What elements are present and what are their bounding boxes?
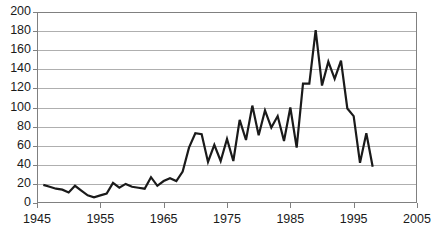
x-axis-tick-label: 1955 xyxy=(77,212,123,226)
y-axis-tick-label: 40 xyxy=(1,157,31,171)
x-axis-ticks xyxy=(33,13,418,209)
x-axis-tick-label: 1975 xyxy=(204,212,250,226)
y-axis-tick-label: 120 xyxy=(1,80,31,94)
y-axis-tick-label: 80 xyxy=(1,119,31,133)
y-axis-tick-label: 0 xyxy=(1,195,31,209)
y-axis-tick-label: 160 xyxy=(1,42,31,56)
x-axis-tick-label: 2005 xyxy=(394,212,438,226)
plot-border xyxy=(38,13,417,203)
x-axis-tick-label: 1985 xyxy=(267,212,313,226)
line-chart: 020406080100120140160180200 194519551965… xyxy=(0,0,438,243)
y-axis-tick-label: 140 xyxy=(1,61,31,75)
data-series-line xyxy=(43,30,372,197)
y-axis-tick-label: 180 xyxy=(1,23,31,37)
x-axis-tick-label: 1965 xyxy=(141,212,187,226)
y-axis-tick-label: 100 xyxy=(1,100,31,114)
chart-plot-area xyxy=(0,0,438,243)
x-axis-tick-label: 1995 xyxy=(331,212,377,226)
x-axis-tick-label: 1945 xyxy=(14,212,60,226)
y-axis-tick-label: 60 xyxy=(1,138,31,152)
y-axis-tick-label: 20 xyxy=(1,176,31,190)
y-axis-tick-label: 200 xyxy=(1,4,31,18)
